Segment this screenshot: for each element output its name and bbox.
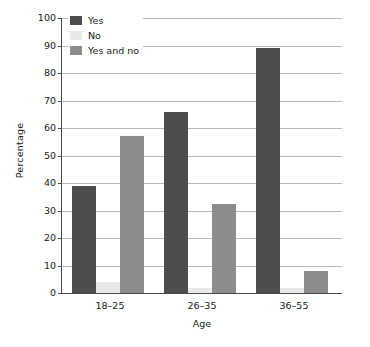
- legend-item: No: [70, 29, 139, 42]
- bar: [96, 282, 120, 293]
- y-axis-tick-label: 50: [44, 151, 56, 161]
- y-axis-tick-label: 80: [44, 68, 56, 78]
- bar: [304, 271, 328, 293]
- legend-swatch: [70, 16, 82, 25]
- bar: [120, 136, 144, 293]
- bar-series-container: [62, 18, 342, 293]
- x-axis-tick-label: 26–35: [188, 300, 217, 311]
- bar: [164, 112, 188, 294]
- y-axis-tick-label: 60: [44, 123, 56, 133]
- bar-chart: Percentage 0102030405060708090100 18–252…: [0, 0, 370, 347]
- plot-area: 0102030405060708090100 18–2526–3536–55 A…: [62, 18, 342, 293]
- legend-swatch: [70, 46, 82, 55]
- y-axis-tick-label: 20: [44, 233, 56, 243]
- y-axis-title-text: Percentage: [15, 122, 26, 177]
- chart-legend: YesNoYes and no: [68, 12, 143, 59]
- bar-group: [164, 18, 240, 293]
- y-axis-title: Percentage: [10, 0, 30, 300]
- x-axis-tick-label: 36–55: [280, 300, 309, 311]
- bar: [280, 288, 304, 294]
- y-axis-tick-label: 10: [44, 261, 56, 271]
- x-axis-title: Age: [62, 318, 342, 329]
- legend-label: No: [88, 31, 101, 41]
- legend-item: Yes: [70, 14, 139, 27]
- legend-label: Yes and no: [88, 46, 139, 56]
- legend-label: Yes: [88, 16, 103, 26]
- y-axis-tick-label: 100: [38, 13, 56, 23]
- legend-item: Yes and no: [70, 44, 139, 57]
- y-axis-tick-label: 30: [44, 206, 56, 216]
- gridline: 0: [62, 293, 342, 294]
- bar: [188, 288, 212, 294]
- x-axis-tick-label: 18–25: [96, 300, 125, 311]
- bar: [212, 204, 236, 293]
- bar-group: [256, 18, 332, 293]
- y-axis-tick-label: 90: [44, 41, 56, 51]
- bar-group: [72, 18, 148, 293]
- bar: [72, 186, 96, 293]
- y-axis-tick-label: 40: [44, 178, 56, 188]
- legend-swatch: [70, 31, 82, 40]
- y-axis-tick-label: 0: [50, 288, 56, 298]
- y-axis-tick-label: 70: [44, 96, 56, 106]
- y-axis-tick-mark: [58, 293, 62, 294]
- bar: [256, 48, 280, 293]
